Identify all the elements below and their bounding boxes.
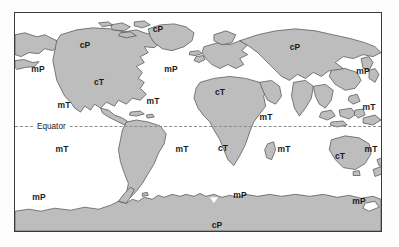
new-zealand-island-s [373,167,381,177]
borneo-island [339,108,356,119]
arctic-island-c [99,22,113,27]
philippines-island [348,94,360,104]
southeast-asia-landmass [313,84,333,108]
equator-line [15,126,381,127]
madagascar-island [265,142,276,160]
airmass-label-cT-southwest-north-america: cT [94,77,104,87]
india-landmass [291,80,313,116]
europe-landmass [202,41,248,69]
airmass-label-mT-tropical-atlantic: mT [147,96,160,106]
airmass-label-mT-coral-sea: mT [365,144,378,154]
arctic-island-a [110,23,130,31]
airmass-label-cP-greenland: cP [153,24,164,34]
airmass-label-cP-siberia: cP [290,42,301,52]
airmass-label-mP-north-atlantic: mP [164,64,177,74]
iceland-landmass [189,51,202,56]
antarctica-landmass [15,193,381,231]
caribbean-island-a [129,111,144,116]
falkland-island [142,192,148,196]
africa-landmass [194,76,268,165]
new-guinea-island [363,115,381,125]
airmass-label-mT-indian-ocean-north: mT [260,112,273,122]
airmass-label-cT-southern-africa: cT [218,143,228,153]
airmass-label-mT-east-pacific-north: mT [58,100,71,110]
world-map-landmasses [15,13,381,231]
airmass-label-mT-west-pacific-north: mT [363,102,376,112]
arctic-island-b [134,21,150,28]
tasmania-island [353,171,360,176]
japan-island [369,68,379,82]
british-isles [194,56,205,63]
airmass-label-mT-east-pacific-south: mT [56,144,69,154]
scandinavia [214,31,236,45]
airmass-label-cP-north-america: cP [80,40,91,50]
airmass-label-mP-south-pacific-east: mP [32,192,45,202]
south-america-landmass [118,120,166,197]
equator-label: Equator [35,122,68,131]
sumatra-island [319,110,335,120]
map-frame: Equator cP cP cP cP mP mP mP mP mP mP cT… [14,12,382,232]
airmass-label-mP-north-pacific-west: mP [356,66,369,76]
airmass-label-mP-north-pacific-east: mP [31,64,44,74]
central-america-landmass [101,108,129,125]
airmass-label-mT-south-atlantic: mT [176,144,189,154]
airmass-label-mP-south-pacific-west: mP [352,196,365,206]
airmass-label-cT-sahara: cT [215,87,225,97]
airmass-label-cP-antarctica: cP [212,220,223,230]
airmass-label-cT-australia: cT [335,151,345,161]
air-mass-world-map-figure: Equator cP cP cP cP mP mP mP mP mP mP cT… [0,0,399,247]
airmass-label-mP-south-indian: mP [233,190,246,200]
new-zealand-island-n [377,158,381,166]
caribbean-island-b [146,114,154,118]
airmass-label-mT-indian-ocean-south: mT [278,144,291,154]
